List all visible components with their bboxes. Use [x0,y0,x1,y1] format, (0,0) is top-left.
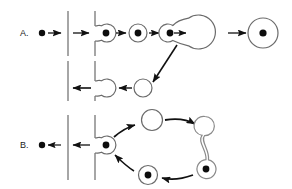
panel-b-tethered-vesicle-lower-cargo [203,166,210,173]
panel-b-arrow-tethered-to-loaded [162,175,193,179]
panel-a-label: A. [20,28,29,38]
vesicle-trafficking-diagram: A. [0,0,292,189]
panel-b-arrow-bud-to-empty-vesicle [114,125,135,137]
panel-b-cargo-dot [39,142,45,148]
panel-a-lysosome-cargo [259,29,266,36]
panel-b-arrow-loaded-to-bud [115,155,134,171]
panel-a-arrow-diagonal-recycling [153,45,177,82]
panel-a-cargo-dot [39,30,45,36]
panel-a-group: A. [20,11,278,101]
panel-a-free-vesicle-1-cargo [135,30,142,37]
panel-a-recycling-vesicle-empty [134,79,152,97]
panel-a-free-vesicle-2-cargo [167,30,174,37]
panel-b-arrow-empty-to-tethered [165,119,195,124]
panel-a-budding-vesicle-top-cargo [103,30,110,37]
panel-b-budding-vesicle-cargo [103,142,110,149]
panel-b-group: B. [20,110,216,185]
panel-b-label: B. [20,140,29,150]
panel-a-budding-vesicle-bottom [95,79,116,97]
panel-b-empty-vesicle-top [142,110,163,131]
figure-root: A. [0,0,292,189]
panel-b-loaded-vesicle-bottom-cargo [145,172,152,179]
